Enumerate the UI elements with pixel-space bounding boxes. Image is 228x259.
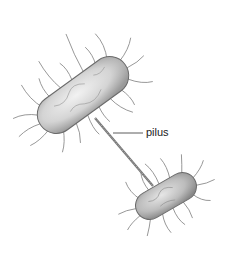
pilus-label: pilus [146,127,169,138]
conjugation-illustration [0,0,228,259]
recipient-bacterium [104,138,227,250]
donor-bacterium [0,5,167,175]
pilus [95,118,153,186]
